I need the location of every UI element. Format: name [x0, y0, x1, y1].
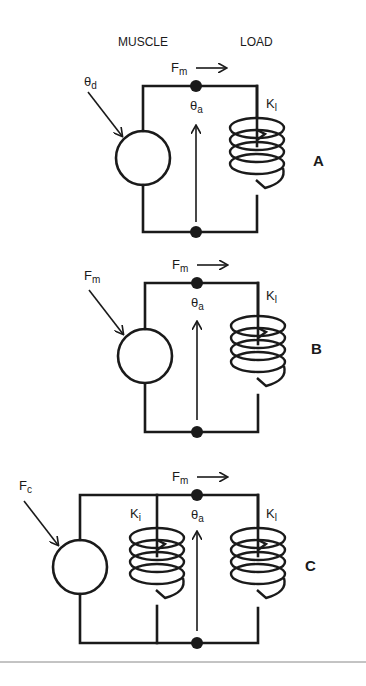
- load-header: LOAD: [240, 35, 273, 49]
- force-label: Fm: [171, 60, 187, 77]
- panel-label-c: C: [305, 557, 316, 574]
- muscle-header: MUSCLE: [118, 35, 168, 49]
- internal-spring-label: Ki: [130, 506, 141, 523]
- top-node: [190, 80, 202, 92]
- bottom-node: [190, 226, 202, 238]
- top-wire: [80, 495, 258, 540]
- input-label: Fm: [84, 268, 100, 285]
- panel-c: Fc Fm θa Ki Kl C: [19, 469, 316, 649]
- load-spring-label: Kl: [266, 506, 277, 523]
- panel-a: θd Fm θa Kl A: [84, 60, 324, 238]
- panel-b: Fm Fm θa Kl B: [84, 257, 322, 438]
- load-spring-label: Kl: [266, 288, 277, 305]
- input-arrow-icon: [24, 501, 58, 545]
- input-arrow-icon: [88, 92, 122, 136]
- bottom-node: [191, 426, 203, 438]
- muscle-load-circuit-diagram: MUSCLE LOAD θd Fm θa Kl A: [0, 0, 366, 686]
- muscle-source-circle: [118, 329, 172, 383]
- input-label: Fc: [19, 478, 32, 495]
- input-arrow-icon: [89, 290, 123, 334]
- angle-label: θa: [190, 98, 203, 115]
- panel-label-a: A: [313, 152, 324, 169]
- bottom-wire: [80, 594, 258, 643]
- panel-label-b: B: [311, 340, 322, 357]
- muscle-source-circle: [116, 131, 170, 185]
- force-label: Fm: [172, 257, 188, 274]
- angle-label: θa: [191, 295, 204, 312]
- top-node: [191, 277, 203, 289]
- angle-label: θa: [191, 507, 204, 524]
- bottom-node: [191, 637, 203, 649]
- top-node: [191, 489, 203, 501]
- input-label: θd: [84, 74, 97, 91]
- force-label: Fm: [172, 469, 188, 486]
- load-spring-label: Kl: [266, 96, 277, 113]
- muscle-source-circle: [53, 540, 107, 594]
- bottom-wire: [143, 185, 257, 232]
- bottom-wire: [145, 384, 258, 432]
